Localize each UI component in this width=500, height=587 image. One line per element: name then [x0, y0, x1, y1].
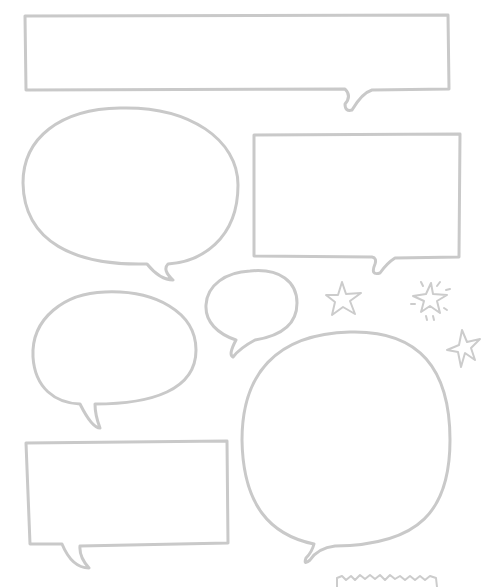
- oval-tiny-bubble: [206, 271, 297, 357]
- oval-small-left-bubble: [33, 292, 196, 428]
- round-big-bubble: [242, 332, 450, 563]
- sparkle-star-icon: [411, 282, 450, 320]
- star-icon: [447, 330, 480, 367]
- speech-bubbles-illustration: [0, 0, 500, 587]
- wide-banner-bubble: [25, 15, 449, 110]
- zigzag-decoration: [337, 575, 437, 587]
- rect-right-bubble: [254, 134, 460, 274]
- star-icon: [326, 282, 361, 315]
- oval-large-bubble: [23, 108, 238, 280]
- rect-bottom-left-bubble: [26, 441, 228, 568]
